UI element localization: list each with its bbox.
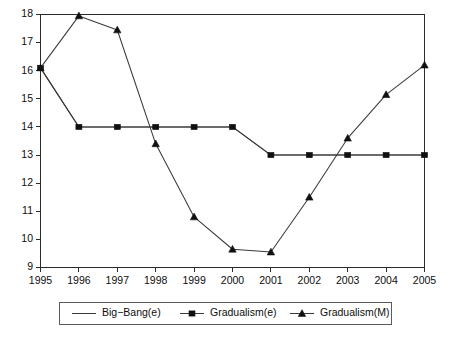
series-line xyxy=(41,68,425,155)
series-triangle xyxy=(37,12,428,255)
data-point-marker xyxy=(75,12,82,19)
y-tick-label: 17 xyxy=(21,35,33,47)
data-point-marker xyxy=(422,152,428,157)
line-chart: 9101112131415161718 19951996199719981999… xyxy=(0,0,451,348)
data-point-marker xyxy=(268,152,274,157)
x-tick-label: 1996 xyxy=(67,274,91,286)
data-point-marker xyxy=(76,124,82,129)
x-tick-label: 1998 xyxy=(144,274,168,286)
x-tick-label: 2005 xyxy=(413,274,437,286)
data-point-marker xyxy=(421,61,428,68)
series-layer xyxy=(37,12,428,255)
data-point-marker xyxy=(382,91,389,98)
data-point-marker xyxy=(230,124,236,129)
figure-caption xyxy=(4,336,234,347)
figure-container: 9101112131415161718 19951996199719981999… xyxy=(0,0,451,348)
x-axis-tick-group: 1995199619971998199920002001200220032004… xyxy=(29,268,437,287)
y-tick-label: 10 xyxy=(21,232,33,244)
series-line xyxy=(41,16,425,252)
x-tick-label: 2003 xyxy=(336,274,360,286)
y-tick-label: 14 xyxy=(21,120,33,132)
y-tick-label: 16 xyxy=(21,64,33,76)
data-point-marker xyxy=(152,140,159,147)
x-tick-label: 2004 xyxy=(374,274,398,286)
y-tick-label: 13 xyxy=(21,148,33,160)
y-axis-tick-group: 9101112131415161718 xyxy=(21,7,40,272)
data-point-marker xyxy=(190,213,197,220)
data-point-marker xyxy=(383,152,389,157)
y-tick-label: 12 xyxy=(21,176,33,188)
legend-sample-marker xyxy=(189,311,195,316)
series-square xyxy=(38,65,428,157)
legend-label: Big−Bang(e) xyxy=(102,306,161,318)
data-point-marker xyxy=(345,152,351,157)
data-point-marker xyxy=(306,152,312,157)
x-tick-label: 1995 xyxy=(29,274,53,286)
x-tick-label: 2000 xyxy=(221,274,245,286)
data-point-marker xyxy=(153,124,159,129)
series-none xyxy=(41,68,425,155)
data-point-marker xyxy=(306,193,313,200)
legend-item-group: Big−Bang(e)Gradualism(e)Gradualism(M) xyxy=(72,306,389,318)
legend-label: Gradualism(e) xyxy=(210,306,277,318)
legend-label: Gradualism(M) xyxy=(320,306,389,318)
y-tick-label: 11 xyxy=(22,204,33,216)
y-tick-label: 18 xyxy=(21,7,33,19)
data-point-marker xyxy=(191,124,197,129)
x-tick-label: 2001 xyxy=(259,274,283,286)
series-line xyxy=(41,68,425,155)
chart-legend: Big−Bang(e)Gradualism(e)Gradualism(M) xyxy=(60,303,392,325)
y-tick-label: 9 xyxy=(27,260,33,272)
y-tick-label: 15 xyxy=(21,92,33,104)
x-tick-label: 2002 xyxy=(298,274,322,286)
data-point-marker xyxy=(114,124,120,129)
x-tick-label: 1997 xyxy=(106,274,130,286)
x-tick-label: 1999 xyxy=(182,274,206,286)
